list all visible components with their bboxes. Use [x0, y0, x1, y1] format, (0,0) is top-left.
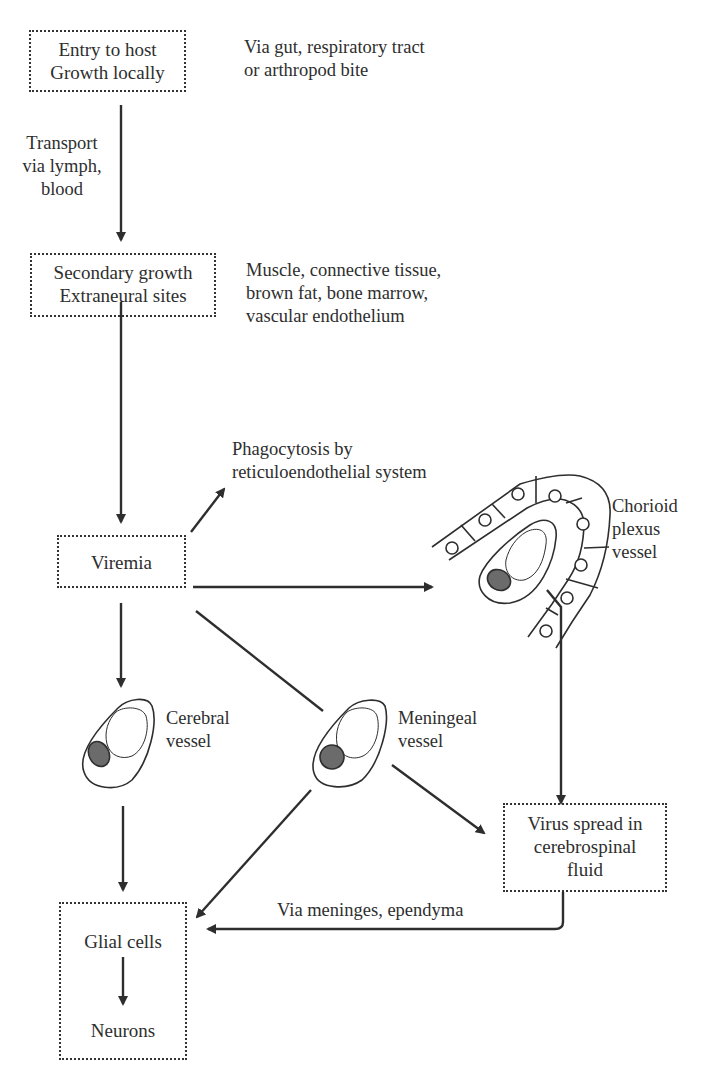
arrow-chorioid-to-csf [547, 590, 561, 803]
meningeal-line2: vessel [398, 730, 477, 753]
arrow-viremia-to-phagocytosis [191, 489, 224, 532]
phagocytosis-line2: reticuloendothelial system [232, 461, 427, 484]
node-secondary-line2: Extraneural sites [32, 284, 214, 307]
chorioid-line2: plexus [612, 518, 678, 541]
node-entry-to-host: Entry to host Growth locally [29, 30, 186, 92]
meninges-route-label: Via meninges, ependyma [277, 900, 463, 920]
entry-routes-line1: Via gut, respiratory tract [244, 36, 425, 59]
node-virus-spread-csf: Virus spread in cerebrospinal fluid [503, 803, 667, 892]
chorioid-plexus-icon [432, 475, 610, 648]
cerebral-line2: vessel [166, 730, 230, 753]
annotation-meninges-route: Via meninges, ependyma [277, 899, 463, 922]
annotation-transport: Transport via lymph, blood [12, 132, 112, 201]
annotation-meningeal-vessel: Meningeal vessel [398, 707, 477, 753]
transport-line3: blood [12, 178, 112, 201]
secondary-sites-line2: brown fat, bone marrow, [246, 282, 441, 305]
annotation-phagocytosis: Phagocytosis by reticuloendothelial syst… [232, 438, 427, 484]
node-glial-label: Glial cells [61, 930, 185, 953]
node-csf-line1: Virus spread in [505, 812, 665, 835]
meningeal-vessel-icon [313, 700, 386, 787]
annotation-chorioid-plexus: Chorioid plexus vessel [612, 495, 678, 564]
node-secondary-line1: Secondary growth [32, 261, 214, 284]
node-csf-line3: fluid [505, 858, 665, 881]
secondary-sites-line1: Muscle, connective tissue, [246, 259, 441, 282]
node-secondary-growth: Secondary growth Extraneural sites [30, 253, 216, 317]
chorioid-line3: vessel [612, 541, 678, 564]
node-entry-line2: Growth locally [31, 61, 184, 84]
entry-routes-line2: or arthropod bite [244, 59, 425, 82]
node-viremia-label: Viremia [59, 551, 184, 574]
transport-line2: via lymph, [12, 155, 112, 178]
arrow-meningeal-to-glial [197, 790, 311, 917]
annotation-entry-routes: Via gut, respiratory tract or arthropod … [244, 36, 425, 82]
node-neurons-label: Neurons [61, 1019, 185, 1042]
node-viremia: Viremia [57, 535, 186, 588]
chorioid-line1: Chorioid [612, 495, 678, 518]
cerebral-vessel-icon [83, 699, 154, 787]
annotation-cerebral-vessel: Cerebral vessel [166, 707, 230, 753]
node-csf-line2: cerebrospinal [505, 835, 665, 858]
node-glial-neurons: Glial cells Neurons [59, 902, 187, 1060]
secondary-sites-line3: vascular endothelium [246, 305, 441, 328]
arrow-meningeal-to-csf [392, 765, 484, 833]
meningeal-line1: Meningeal [398, 707, 477, 730]
transport-line1: Transport [12, 132, 112, 155]
line-viremia-to-meningeal [196, 611, 323, 711]
phagocytosis-line1: Phagocytosis by [232, 438, 427, 461]
annotation-secondary-sites: Muscle, connective tissue, brown fat, bo… [246, 259, 441, 328]
node-entry-line1: Entry to host [31, 38, 184, 61]
cerebral-line1: Cerebral [166, 707, 230, 730]
